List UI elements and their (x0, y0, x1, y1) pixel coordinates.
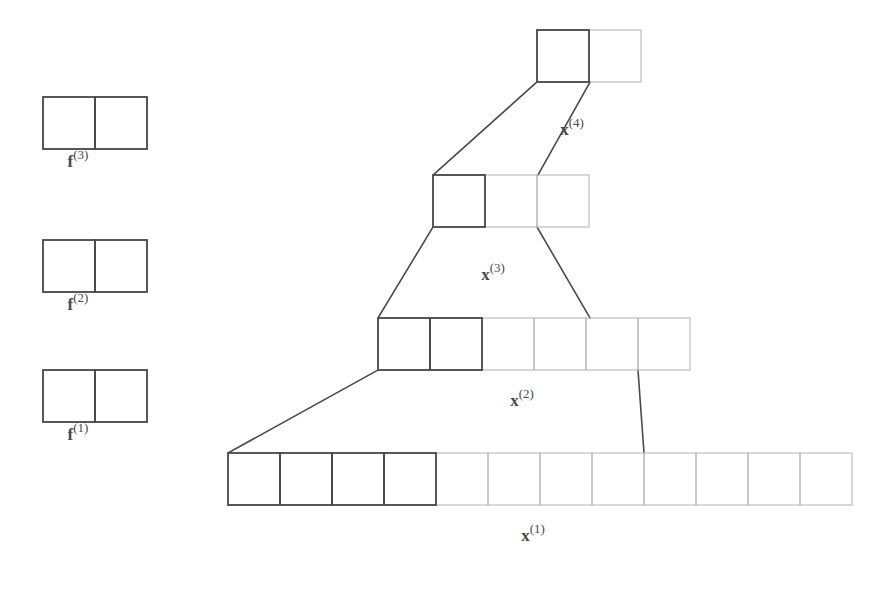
filter-label-2-base: f (68, 295, 74, 314)
layer-x4-cell-2 (589, 30, 641, 82)
filter-label-2: f(2) (68, 291, 89, 314)
layer-x1-cell-3 (332, 453, 384, 505)
layer-x3-cell-2 (485, 175, 537, 227)
filter-2-cell-1 (43, 240, 95, 292)
connector-2-to-3-left-edge (378, 227, 433, 318)
layer-x2 (378, 318, 690, 370)
connector-2-to-3-right-edge (537, 227, 590, 318)
figure-root: x(1)x(2)x(3)x(4)f(3)f(2)f(1) (0, 0, 896, 594)
layer-x3-label: x(3) (481, 261, 505, 284)
layer-x3 (433, 175, 589, 227)
filter-1-cell-1-active (43, 370, 95, 422)
layer-x1-cell-12 (800, 453, 852, 505)
filter-3-cell-2 (95, 97, 147, 149)
layer-x1-cell-3-active (332, 453, 384, 505)
layer-x1-cell-6 (488, 453, 540, 505)
filter-label-1-superscript: (1) (73, 420, 88, 435)
layer-x3-cell-3 (537, 175, 589, 227)
layer-x4 (537, 30, 641, 82)
layer-x2-cell-1 (378, 318, 430, 370)
layer-x2-label-superscript: (2) (519, 386, 534, 401)
layer-x4-cell-1-active (537, 30, 589, 82)
layer-x2-cell-2-active (430, 318, 482, 370)
connector-1-to-2-left-edge (228, 370, 378, 453)
layer-x1-label: x(1) (521, 522, 545, 545)
layer-x1-cell-11 (748, 453, 800, 505)
layer-x4-label-superscript: (4) (569, 115, 584, 130)
filter-3-cell-1 (43, 97, 95, 149)
filter-1-cell-2 (95, 370, 147, 422)
filter-label-2-superscript: (2) (73, 290, 88, 305)
filter-label-3-superscript: (3) (73, 147, 88, 162)
filter-label-3-base: f (68, 152, 74, 171)
layer-x2-label-base: x (510, 391, 519, 410)
diagram-canvas (0, 0, 896, 594)
filter-label-1-base: f (68, 425, 74, 444)
layer-x2-cell-2 (430, 318, 482, 370)
layer-x2-cell-4 (534, 318, 586, 370)
layer-x1-cell-8 (592, 453, 644, 505)
layer-x2-cell-1-active (378, 318, 430, 370)
filter-1-cell-1 (43, 370, 95, 422)
filter-label-1: f(1) (68, 421, 89, 444)
filter-2-cell-1-active (43, 240, 95, 292)
layer-x2-label: x(2) (510, 387, 534, 410)
layer-x1-label-superscript: (1) (530, 521, 545, 536)
layer-x3-cell-1-active (433, 175, 485, 227)
layer-x3-label-base: x (481, 265, 490, 284)
layer-x1-cell-7 (540, 453, 592, 505)
layer-x4-label-base: x (560, 120, 569, 139)
filter-2 (43, 240, 147, 292)
layer-x1-label-base: x (521, 526, 530, 545)
layer-x2-cell-3 (482, 318, 534, 370)
filter-label-3: f(3) (68, 148, 89, 171)
filter-3 (43, 97, 147, 149)
layer-x1-cell-2-active (280, 453, 332, 505)
filter-2-cell-2 (95, 240, 147, 292)
layer-x4-cell-1 (537, 30, 589, 82)
filter-1-cell-2-active (95, 370, 147, 422)
layer-x1-cell-9 (644, 453, 696, 505)
layer-x1-cell-1 (228, 453, 280, 505)
connector-1-to-2 (228, 370, 644, 453)
layer-x2-cell-5 (586, 318, 638, 370)
layer-x1-cell-2 (280, 453, 332, 505)
layer-x1-cell-10 (696, 453, 748, 505)
layer-x2-cell-6 (638, 318, 690, 370)
layer-x1-cell-4-active (384, 453, 436, 505)
layer-x1-cell-4 (384, 453, 436, 505)
connector-3-to-4-left-edge (433, 82, 537, 175)
layer-x1 (228, 453, 852, 505)
layer-x3-label-superscript: (3) (490, 260, 505, 275)
filter-3-cell-1-active (43, 97, 95, 149)
filter-3-cell-2-active (95, 97, 147, 149)
layer-x4-label: x(4) (560, 116, 584, 139)
connector-1-to-2-right-edge (638, 370, 644, 453)
layer-x1-cell-1-active (228, 453, 280, 505)
layer-x1-cell-5 (436, 453, 488, 505)
filter-2-cell-2-active (95, 240, 147, 292)
filter-1 (43, 370, 147, 422)
layer-x3-cell-1 (433, 175, 485, 227)
